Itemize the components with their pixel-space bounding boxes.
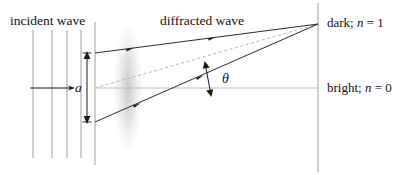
label-diffracted-wave: diffracted wave [160, 14, 244, 28]
diffraction-figure: incident wave diffracted wave dark; n = … [0, 0, 407, 175]
label-incident-wave: incident wave [10, 14, 85, 28]
bright-fringe-text: bright; [327, 80, 365, 95]
dark-fringe-text: dark; [327, 15, 357, 30]
label-slit-width: a [75, 81, 82, 95]
dark-fringe-order-value: = 1 [363, 15, 383, 30]
slit-width-dimension [83, 51, 92, 124]
bright-fringe-order-value: = 0 [371, 80, 391, 95]
angle-indicator [203, 61, 213, 97]
label-dark-fringe: dark; n = 1 [327, 16, 384, 29]
label-angle-theta: θ [222, 72, 229, 86]
incident-wavefronts [33, 30, 81, 158]
label-bright-fringe: bright; n = 0 [327, 81, 392, 94]
